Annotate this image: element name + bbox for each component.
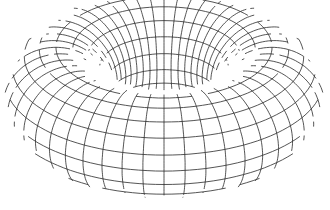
mesh-line [14,66,77,127]
mesh-line [171,0,177,89]
mesh-line [13,122,300,171]
mesh-line [243,76,293,150]
torus-wireframe [0,0,330,210]
mesh-line [251,66,314,127]
mesh-line [151,0,157,89]
mesh-line [49,81,95,169]
mesh-line [228,87,263,181]
mesh-line [22,144,293,185]
mesh-line [190,93,206,193]
mesh-line [243,71,304,140]
mesh-line [83,88,114,187]
mesh-line [232,81,278,169]
mesh-line [24,71,85,140]
figure-caption [0,200,330,210]
torus-mesh-lines [5,0,323,198]
mesh-line [214,88,245,187]
mesh-line [122,93,138,193]
mesh-line [143,94,151,197]
mesh-line [177,94,185,197]
mesh-line [65,87,100,181]
mesh-line [36,76,86,150]
